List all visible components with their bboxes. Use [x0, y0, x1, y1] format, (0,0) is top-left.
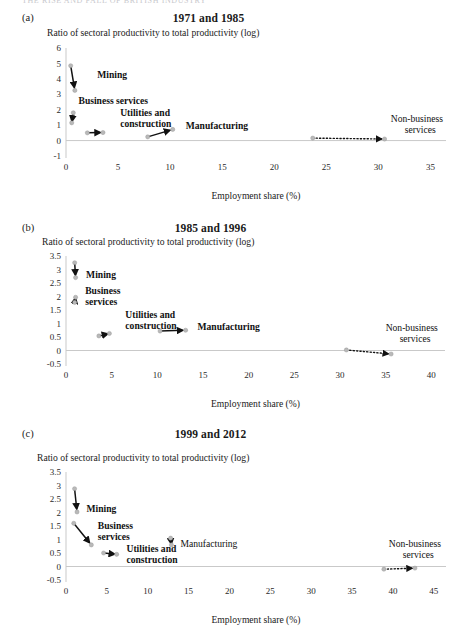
x-tick-label: 25 [290, 370, 300, 380]
y-tick-label: -1 [54, 151, 62, 161]
x-tick-label: 20 [270, 162, 280, 172]
x-tick-label: 35 [381, 370, 391, 380]
y-tick-label: 0 [57, 562, 62, 572]
data-point-end [115, 552, 119, 556]
series-label: services [400, 333, 431, 344]
series-label: Non-business [391, 113, 443, 124]
data-point-start [158, 329, 162, 333]
series-label: Non-business [389, 538, 441, 549]
series-non-business-services: Non-businessservices [344, 322, 438, 356]
y-tick-label: -0.5 [47, 575, 62, 585]
data-point-start [72, 487, 76, 491]
y-tick-label: 0 [57, 346, 62, 356]
data-point-start [72, 521, 76, 525]
chart-panel-c: (c) 1999 and 2012 Ratio of sectoral prod… [0, 428, 457, 641]
data-point-end [169, 543, 173, 547]
series-label: services [98, 531, 130, 542]
x-tick-label: 25 [322, 162, 332, 172]
y-axis-label-a: Ratio of sectoral productivity to total … [47, 27, 259, 38]
y-tick-label: 0 [57, 136, 62, 146]
data-point-start [69, 64, 73, 68]
figure-page: THE RISE AND FALL OF BRITISH INDUSTRY (a… [0, 0, 457, 641]
y-tick-label: 1.5 [50, 521, 62, 531]
y-tick-label: 3 [57, 265, 62, 275]
y-tick-label: 2.5 [50, 494, 62, 504]
data-point-end [89, 543, 93, 547]
x-tick-label: 0 [64, 586, 69, 596]
chart-svg-a: -1012345605101520253035MiningBusiness se… [40, 42, 452, 182]
chart-title-a: 1971 and 1985 [0, 12, 437, 24]
x-tick-label: 30 [335, 370, 345, 380]
data-point-end [171, 127, 175, 131]
series-label: Utilities and [120, 107, 171, 118]
series-mining: Mining [69, 64, 128, 93]
series-label: construction [126, 554, 178, 565]
x-tick-label: 25 [266, 586, 276, 596]
x-tick-label: 40 [427, 370, 437, 380]
data-point-start [97, 334, 101, 338]
data-point-start [85, 131, 89, 135]
series-utilities-and-construction: Utilities andconstruction [85, 107, 172, 135]
data-point-end [73, 88, 77, 92]
data-point-start [71, 111, 75, 115]
data-point-end [107, 331, 111, 335]
x-tick-label: 5 [105, 586, 110, 596]
x-tick-label: 5 [116, 162, 121, 172]
transition-arrow [71, 66, 75, 88]
y-tick-label: 4 [57, 74, 62, 84]
series-label: Utilities and [125, 309, 176, 320]
y-tick-label: 3 [57, 89, 62, 99]
series-label: construction [125, 320, 177, 331]
x-tick-label: 45 [429, 586, 439, 596]
data-point-end [413, 566, 417, 570]
y-tick-label: 2.5 [50, 278, 62, 288]
x-tick-label: 20 [244, 370, 254, 380]
transition-arrow [313, 138, 382, 139]
transition-arrow [75, 489, 77, 509]
data-point-end [73, 295, 77, 299]
data-point-end [101, 130, 105, 134]
x-tick-label: 5 [109, 370, 114, 380]
series-label: Mining [97, 69, 127, 80]
x-axis-label-c: Employment share (%) [66, 614, 446, 625]
y-tick-label: 2 [57, 292, 62, 302]
x-tick-label: 0 [64, 162, 69, 172]
y-tick-label: -0.5 [47, 359, 62, 369]
data-point-end [389, 352, 393, 356]
chart-svg-c: -0.500.511.522.533.5051015202530354045Mi… [28, 466, 452, 606]
series-label: Manufacturing [198, 321, 261, 332]
series-label: Business [85, 285, 120, 296]
y-tick-label: 3 [57, 481, 62, 491]
transition-arrow [74, 523, 90, 542]
x-tick-label: 10 [143, 586, 153, 596]
x-tick-label: 30 [374, 162, 384, 172]
series-label: services [85, 296, 117, 307]
data-point-end [70, 121, 74, 125]
transition-arrow [384, 568, 412, 569]
running-head: THE RISE AND FALL OF BRITISH INDUSTRY [22, 0, 342, 5]
series-mining: Mining [72, 487, 116, 514]
y-tick-label: 1 [57, 120, 62, 130]
series-label: Manufacturing [180, 538, 237, 549]
data-point-start [146, 135, 150, 139]
chart-title-c: 1999 and 2012 [0, 428, 439, 440]
data-point-end [184, 328, 188, 332]
x-tick-label: 35 [426, 162, 436, 172]
x-tick-label: 20 [225, 586, 235, 596]
series-label: services [403, 549, 434, 560]
x-axis-label-a: Employment share (%) [66, 190, 446, 201]
y-tick-label: 1 [57, 319, 62, 329]
y-tick-label: 0.5 [50, 332, 62, 342]
series-business-services: Businessservices [72, 520, 134, 547]
y-tick-label: 3.5 [50, 251, 62, 261]
transition-arrow [160, 330, 182, 331]
data-point-start [344, 348, 348, 352]
chart-panel-a: (a) 1971 and 1985 Ratio of sectoral prod… [0, 12, 457, 220]
data-point-end [382, 137, 386, 141]
x-tick-label: 40 [388, 586, 398, 596]
series-label: construction [120, 118, 172, 129]
x-tick-label: 35 [348, 586, 358, 596]
x-tick-label: 10 [153, 370, 163, 380]
y-tick-label: 6 [57, 43, 62, 53]
series-manufacturing: Manufacturing [169, 536, 238, 548]
